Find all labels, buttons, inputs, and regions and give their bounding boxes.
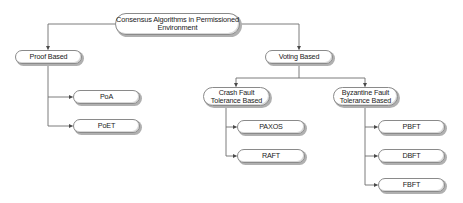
node-pbft: PBFT	[378, 120, 445, 134]
edge-voting-crash	[236, 78, 299, 87]
node-root-label-line2: Environment	[116, 24, 239, 32]
edge-byzantine-dbft	[365, 127, 378, 156]
node-paxos: PAXOS	[237, 120, 305, 134]
node-voting-based: Voting Based	[265, 50, 333, 64]
node-crash-fault-label-line2: Tolerance Based	[211, 97, 262, 105]
edge-byzantine-pbft	[365, 106, 378, 127]
node-fbft: FBFT	[378, 178, 445, 192]
edge-root-proof	[48, 24, 115, 50]
node-dbft: DBFT	[378, 149, 445, 163]
node-crash-fault: Crash Fault Tolerance Based	[203, 87, 270, 106]
node-dbft-label: DBFT	[402, 152, 420, 160]
node-raft-label: RAFT	[262, 152, 280, 160]
edge-crash-raft	[226, 127, 237, 156]
node-voting-based-label: Voting Based	[279, 53, 320, 61]
edge-root-voting	[240, 24, 299, 50]
node-poa-label: PoA	[100, 93, 113, 101]
edge-proof-poet	[48, 97, 73, 126]
node-byzantine-fault: Byzantine Fault Tolerance Based	[333, 87, 398, 106]
node-proof-based-label: Proof Based	[30, 53, 68, 61]
node-poet-label: PoET	[98, 122, 115, 130]
node-paxos-label: PAXOS	[259, 123, 282, 131]
node-root: Consensus Algorithms in Permissioned Env…	[115, 13, 240, 35]
node-pbft-label: PBFT	[403, 123, 421, 131]
edge-voting-byzantine	[299, 78, 365, 87]
node-poa: PoA	[73, 90, 140, 104]
node-poet: PoET	[73, 119, 140, 133]
node-byzantine-fault-label-line2: Tolerance Based	[340, 97, 391, 105]
node-fbft-label: FBFT	[403, 181, 420, 189]
edge-crash-paxos	[226, 106, 237, 127]
edge-byzantine-fbft	[365, 156, 378, 185]
node-proof-based: Proof Based	[15, 50, 82, 64]
node-raft: RAFT	[237, 149, 305, 163]
edge-proof-poa	[48, 64, 73, 97]
